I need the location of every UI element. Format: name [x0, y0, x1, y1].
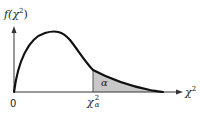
critical-chi: χ	[87, 96, 94, 109]
y-axis-label: f(χ2)	[4, 8, 28, 20]
alpha-text: α	[101, 77, 108, 88]
y-axis-arrow-icon	[12, 26, 17, 33]
origin-text: 0	[10, 98, 16, 109]
critical-sub: α	[95, 102, 100, 109]
y-label-close: )	[24, 8, 28, 21]
x-label-chi: χ	[185, 86, 192, 99]
origin-label: 0	[10, 99, 16, 109]
x-label-sup: 2	[192, 85, 196, 93]
alpha-label: α	[101, 78, 108, 88]
critical-value-label: χ2α	[87, 97, 100, 108]
chi-square-chart	[0, 0, 200, 113]
x-axis-arrow-icon	[176, 90, 183, 95]
density-curve	[14, 31, 163, 92]
x-axis-label: χ2	[185, 86, 196, 98]
